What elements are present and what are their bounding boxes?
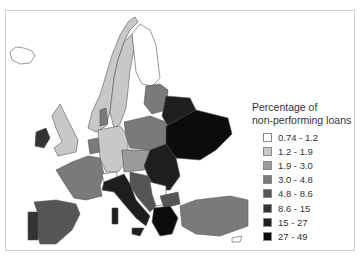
legend-item: 27 - 49 [263, 229, 357, 243]
region-ireland [35, 128, 50, 148]
legend-swatch [263, 147, 272, 156]
legend-item: 1.9 - 3.0 [263, 158, 357, 172]
legend-label: 15 - 27 [278, 217, 308, 228]
legend-swatch [263, 161, 272, 170]
region-iceland [10, 47, 35, 64]
legend-label: 1.2 - 1.9 [278, 146, 313, 157]
legend-title-line2: non-performing loans [252, 114, 357, 127]
legend-swatch [263, 189, 272, 198]
legend-swatch [263, 204, 272, 213]
region-poland [124, 116, 166, 150]
region-uk [52, 104, 78, 156]
legend-label: 27 - 49 [278, 231, 308, 242]
legend-label: 8.6 - 15 [278, 203, 310, 214]
region-sweden [110, 34, 134, 128]
legend-item: 15 - 27 [263, 215, 357, 229]
legend-swatch [263, 175, 272, 184]
legend-label: 4.8 - 8.6 [278, 188, 313, 199]
legend-label: 0.74 - 1.2 [278, 132, 318, 143]
region-sicily [132, 228, 144, 236]
legend-swatch [263, 218, 272, 227]
region-cyprus [232, 236, 242, 242]
legend-label: 1.9 - 3.0 [278, 160, 313, 171]
legend-title-line1: Percentage of [252, 101, 357, 114]
region-finland [132, 24, 160, 86]
region-benelux [88, 138, 100, 154]
legend-item: 1.2 - 1.9 [263, 144, 357, 158]
legend-label: 3.0 - 4.8 [278, 174, 313, 185]
region-sardinia [112, 208, 118, 224]
legend-item: 8.6 - 15 [263, 201, 357, 215]
region-greece [152, 206, 178, 236]
legend-item: 3.0 - 4.8 [263, 173, 357, 187]
legend-swatch [263, 232, 272, 241]
legend: Percentage of non-performing loans 0.74 … [252, 101, 357, 244]
region-france [56, 156, 104, 200]
region-portugal [28, 212, 38, 240]
region-spain [34, 200, 80, 244]
legend-item: 0.74 - 1.2 [263, 130, 357, 144]
legend-item: 4.8 - 8.6 [263, 187, 357, 201]
region-turkey [180, 196, 248, 236]
legend-swatch [263, 133, 272, 142]
